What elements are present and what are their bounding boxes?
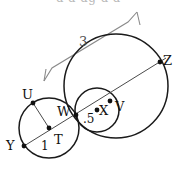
point-dot-Y <box>22 144 27 149</box>
label-point-Z: Z <box>163 54 172 67</box>
point-dot-V <box>108 99 113 104</box>
label-point-T: T <box>54 133 63 146</box>
diagram-canvas <box>0 0 177 169</box>
geometry-figure: a a ag a a U W T Y X V Z 1 .5 3 <box>0 0 177 169</box>
brace-path-left <box>44 12 137 81</box>
label-point-X: X <box>99 104 108 117</box>
label-radius-middle: .5 <box>83 113 94 125</box>
radius-segment-TU <box>33 103 49 128</box>
label-point-U: U <box>22 88 33 101</box>
label-point-V: V <box>115 100 124 113</box>
brace-tick-right <box>137 12 140 25</box>
label-radius-left: 1 <box>41 140 49 152</box>
point-dot-T <box>47 126 52 131</box>
label-point-W: W <box>57 105 70 118</box>
label-length-brace: 3 <box>79 35 87 48</box>
point-dot-W <box>74 113 79 118</box>
point-dot-Z <box>158 60 163 65</box>
label-point-Y: Y <box>6 139 15 152</box>
